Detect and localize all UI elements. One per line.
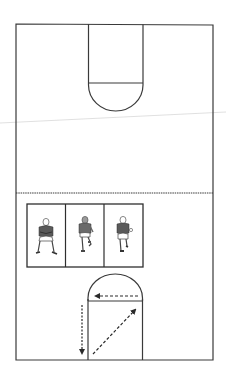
- player-panel: [27, 204, 143, 267]
- court-diagram: [0, 0, 226, 381]
- court: [16, 24, 213, 360]
- bottom-key: [88, 274, 143, 360]
- scan-artifact-line: [0, 112, 226, 123]
- bottom-free-throw-arc: [88, 274, 143, 301]
- top-key: [89, 24, 144, 111]
- movement-arrows: [82, 296, 138, 354]
- top-free-throw-arc: [89, 83, 144, 111]
- court-boundary: [16, 24, 213, 360]
- diagonal-arrow: [93, 310, 135, 354]
